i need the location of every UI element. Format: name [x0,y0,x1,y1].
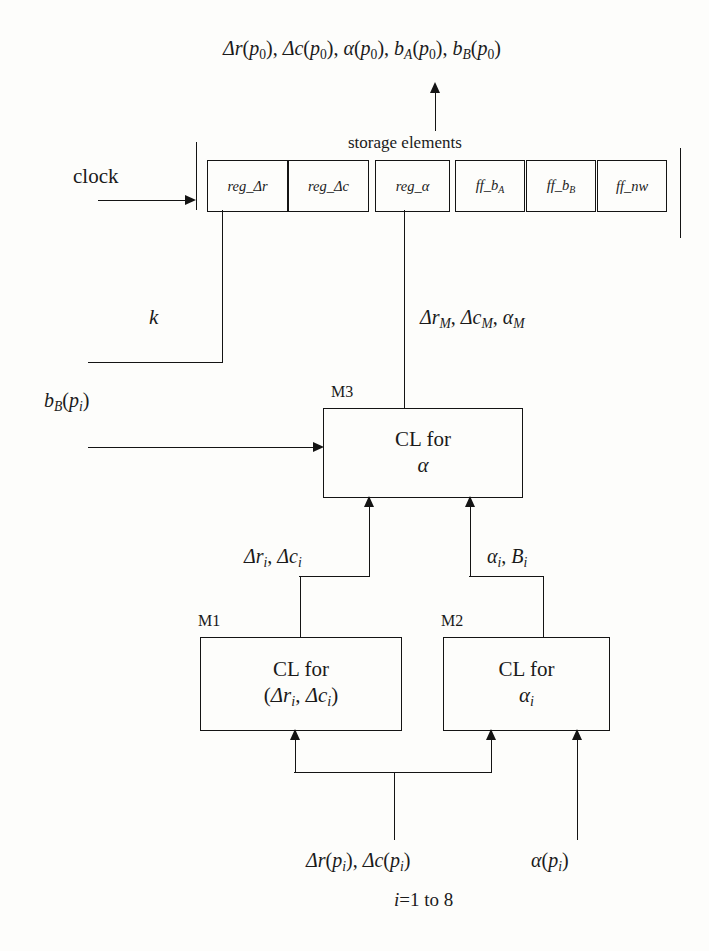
m1-output-run [299,576,370,577]
module-m1[interactable]: CL for (Δri, Δci) [200,637,402,731]
storage-cell-label: ff_bB [547,177,576,195]
right-boundary-rail [680,148,681,238]
k-symbol: k [149,305,158,329]
k-wire-vertical [222,210,223,363]
module-m2-line1: CL for [499,657,555,683]
top-output-label: Δr(p0), Δc(p0), α(p0), bA(p0), bB(p0) [223,38,501,61]
m2-output-riser [543,576,544,637]
storage-cell-label: reg_Δr [227,178,267,195]
m3-input-left-wire [369,506,370,576]
module-m2[interactable]: CL for αi [443,637,610,731]
module-m1-line2: (Δri, Δci) [264,683,339,710]
module-tag-m3: M3 [331,383,353,401]
bottom-fanout-bus [294,772,492,773]
left-bus-label: Δri, Δci [244,546,302,569]
bottom-right-input-label: α(pi) [531,850,569,873]
right-bus-label: αi, Bi [487,546,527,569]
storage-cell-label: ff_bA [476,177,505,195]
module-tag-m1: M1 [198,612,220,630]
storage-cell-label: ff_nw [616,178,648,195]
clock-arrowhead [185,195,196,205]
top-output-arrowhead [430,82,440,93]
clock-label: clock [73,166,118,187]
module-m3-line1: CL for [395,427,451,453]
storage-cell-label: reg_Δc [308,178,349,195]
storage-cell-reg-dr[interactable]: reg_Δr [207,160,288,212]
mid-bus-wire [404,210,405,408]
bottom-source-stem [394,772,395,840]
m2-input-right-wire [577,739,578,840]
storage-cell-label: reg_α [396,178,430,195]
left-boundary-rail [196,142,197,210]
module-tag-m2: M2 [441,612,463,630]
index-range-label: i=1 to 8 [394,890,453,909]
module-m1-line1: CL for [273,657,329,683]
bb-input-label: bB(pi) [44,390,89,413]
m1-output-riser [300,576,301,637]
storage-cell-ff-ba[interactable]: ff_bA [455,160,525,212]
module-m2-line2: αi [519,683,534,710]
storage-cell-ff-bb[interactable]: ff_bB [526,160,596,212]
k-wire-horizontal [88,362,223,363]
storage-cell-reg-alpha[interactable]: reg_α [375,160,450,212]
m2-output-run [469,576,544,577]
bottom-left-input-label: Δr(pi), Δc(pi) [306,850,410,873]
m2-input-left-wire [491,739,492,773]
clock-wire [98,200,186,201]
top-output-wire [435,90,436,131]
bb-input-wire [88,447,316,448]
storage-cell-ff-nw[interactable]: ff_nw [597,160,667,212]
m1-input-wire [295,739,296,773]
m3-input-right-wire [470,506,471,576]
block-diagram-canvas: Δr(p0), Δc(p0), α(p0), bA(p0), bB(p0) st… [0,0,709,951]
module-m3-line2: α [417,453,428,479]
module-m3[interactable]: CL for α [323,408,523,498]
storage-cell-reg-dc[interactable]: reg_Δc [288,160,369,212]
k-label: k [149,307,158,328]
storage-elements-caption: storage elements [348,133,462,153]
mid-bus-label: ΔrM, ΔcM, αM [420,307,525,330]
